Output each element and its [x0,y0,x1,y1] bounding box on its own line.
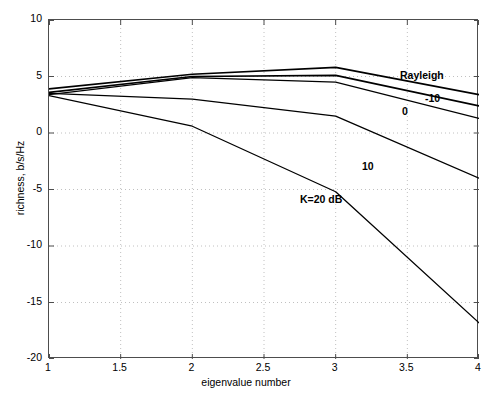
y-axis-label: richness, b/s/Hz [14,98,26,258]
x-axis-label: eigenvalue number [0,376,492,388]
y-tick-label: 10 [2,13,42,24]
x-tick-label: 3 [315,362,355,373]
x-tick-label: 3.5 [386,362,426,373]
y-tick-label: -15 [2,296,42,307]
x-tick-label: 1 [28,362,68,373]
curve-label: -10 [425,93,440,104]
y-tick-label: 5 [2,70,42,81]
plot-area: Rayleigh-10010K=20 dB [48,19,478,358]
curve-label: K=20 dB [300,194,342,205]
series-line [49,93,479,178]
curve-label: Rayleigh [400,70,444,81]
x-tick-label: 2.5 [243,362,283,373]
figure-canvas: 1050-5-10-15-20 11.522.533.54 richness, … [0,0,492,408]
curve-label: 10 [362,161,374,172]
x-tick-label: 2 [171,362,211,373]
curve-label: 0 [402,106,408,117]
x-tick-label: 4 [458,362,492,373]
x-tick-label: 1.5 [100,362,140,373]
